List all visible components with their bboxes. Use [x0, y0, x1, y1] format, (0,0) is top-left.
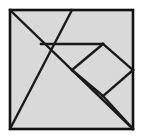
tangram-figure — [0, 0, 143, 140]
tangram-canvas — [0, 0, 143, 140]
